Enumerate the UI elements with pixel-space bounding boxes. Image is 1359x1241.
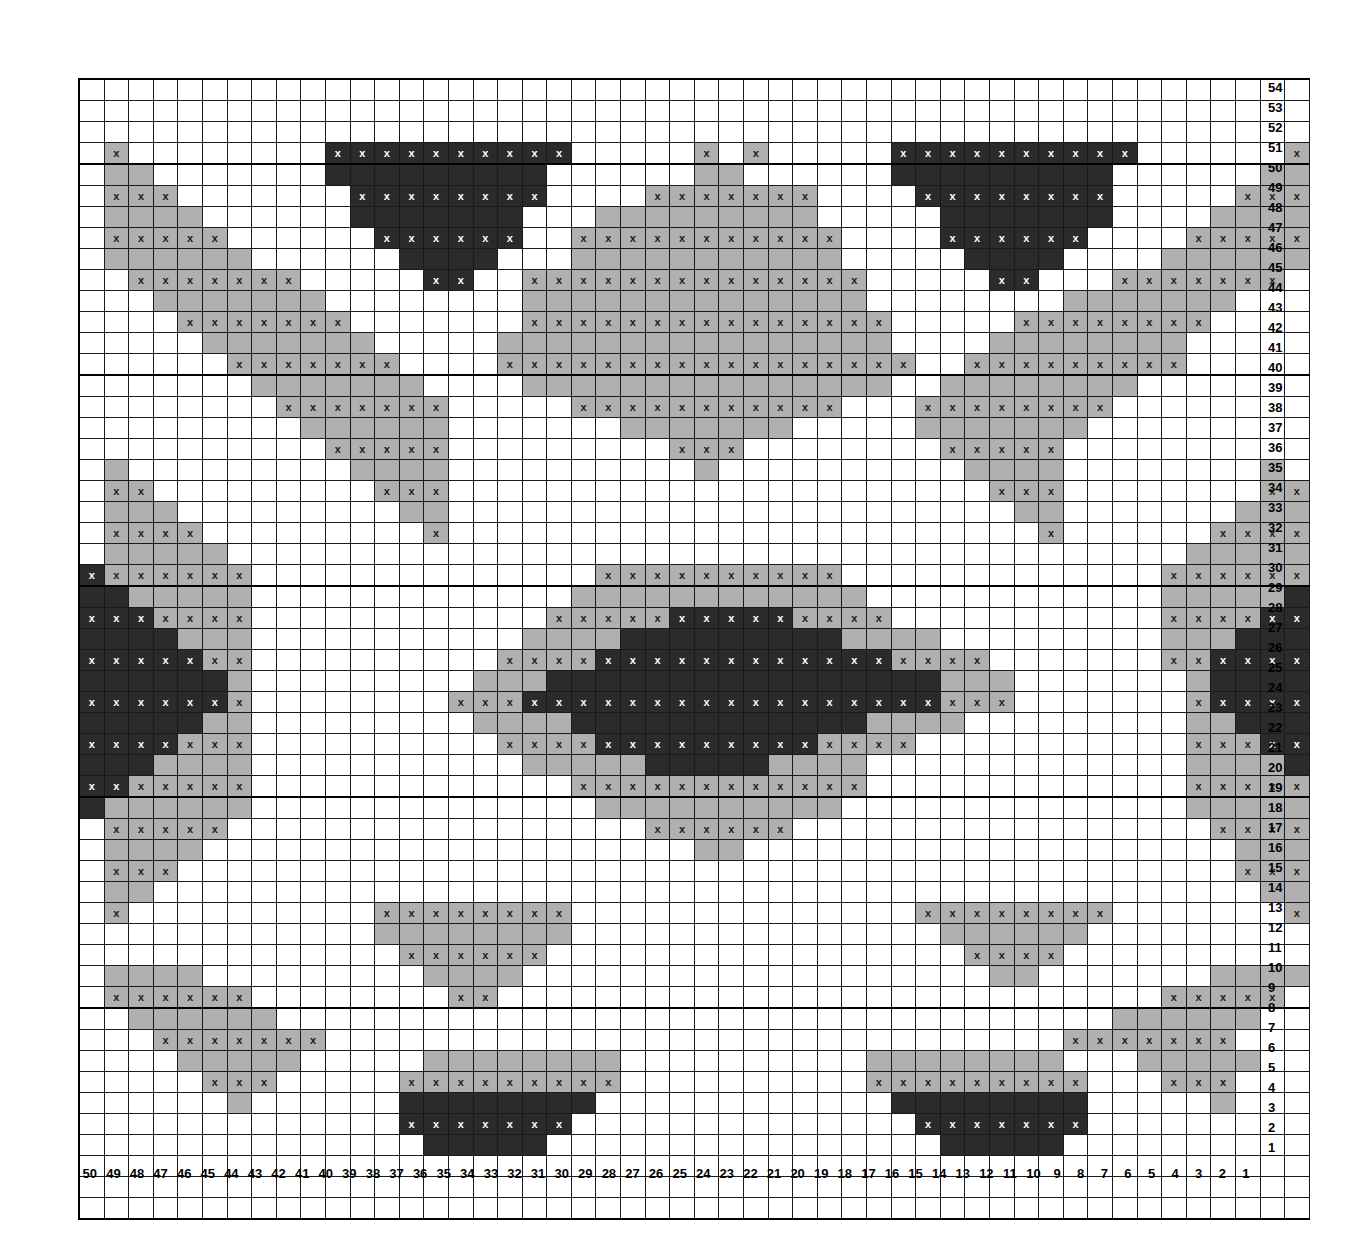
chart-cell[interactable] — [1162, 1093, 1187, 1114]
chart-cell[interactable] — [842, 1008, 867, 1030]
chart-cell[interactable]: x — [842, 734, 867, 755]
chart-cell[interactable] — [448, 502, 473, 523]
chart-cell[interactable] — [916, 1051, 941, 1072]
chart-cell[interactable] — [989, 79, 1014, 101]
chart-cell[interactable] — [940, 924, 965, 945]
chart-cell[interactable]: x — [129, 565, 154, 587]
chart-cell[interactable] — [596, 375, 621, 397]
chart-cell[interactable] — [1014, 776, 1039, 798]
chart-cell[interactable] — [1186, 460, 1211, 481]
chart-cell[interactable] — [178, 924, 203, 945]
chart-cell[interactable] — [768, 945, 793, 966]
chart-cell[interactable] — [1039, 755, 1064, 776]
chart-cell[interactable]: x — [350, 397, 375, 418]
chart-cell[interactable] — [817, 375, 842, 397]
chart-cell[interactable] — [350, 713, 375, 734]
chart-cell[interactable] — [1162, 439, 1187, 460]
chart-cell[interactable] — [153, 122, 178, 143]
chart-cell[interactable] — [817, 101, 842, 122]
chart-cell[interactable] — [153, 312, 178, 333]
chart-cell[interactable]: x — [473, 186, 498, 207]
chart-cell[interactable] — [1014, 966, 1039, 987]
chart-cell[interactable] — [1162, 903, 1187, 924]
chart-cell[interactable] — [571, 840, 596, 861]
chart-cell[interactable]: x — [227, 354, 252, 376]
chart-cell[interactable] — [1162, 418, 1187, 439]
chart-cell[interactable] — [1039, 797, 1064, 819]
chart-cell[interactable] — [793, 1051, 818, 1072]
chart-cell[interactable]: x — [129, 481, 154, 502]
chart-cell[interactable] — [448, 207, 473, 228]
chart-cell[interactable] — [227, 375, 252, 397]
chart-cell[interactable] — [276, 164, 301, 186]
chart-cell[interactable]: x — [719, 692, 744, 713]
chart-cell[interactable] — [522, 101, 547, 122]
chart-cell[interactable] — [891, 987, 916, 1009]
chart-cell[interactable] — [867, 776, 892, 798]
chart-cell[interactable] — [793, 523, 818, 544]
chart-cell[interactable] — [129, 840, 154, 861]
chart-cell[interactable]: x — [79, 692, 104, 713]
chart-cell[interactable] — [252, 101, 277, 122]
chart-cell[interactable] — [350, 1051, 375, 1072]
chart-cell[interactable]: x — [817, 228, 842, 249]
chart-cell[interactable]: x — [1063, 354, 1088, 376]
chart-cell[interactable] — [1285, 924, 1310, 945]
chart-cell[interactable] — [325, 1135, 350, 1156]
chart-cell[interactable] — [498, 1030, 523, 1051]
chart-cell[interactable] — [1211, 207, 1236, 228]
chart-cell[interactable]: x — [1039, 354, 1064, 376]
chart-cell[interactable] — [522, 481, 547, 502]
chart-cell[interactable]: x — [571, 734, 596, 755]
chart-cell[interactable] — [596, 1135, 621, 1156]
chart-cell[interactable] — [842, 481, 867, 502]
chart-cell[interactable] — [891, 122, 916, 143]
chart-cell[interactable] — [1039, 565, 1064, 587]
chart-cell[interactable] — [1063, 122, 1088, 143]
chart-cell[interactable] — [350, 270, 375, 291]
chart-cell[interactable] — [350, 671, 375, 692]
chart-cell[interactable] — [547, 164, 572, 186]
chart-cell[interactable] — [571, 164, 596, 186]
chart-cell[interactable] — [744, 797, 769, 819]
chart-cell[interactable] — [350, 734, 375, 755]
chart-cell[interactable] — [916, 1198, 941, 1220]
chart-cell[interactable] — [891, 439, 916, 460]
chart-cell[interactable] — [940, 291, 965, 312]
chart-cell[interactable] — [1137, 418, 1162, 439]
chart-cell[interactable] — [989, 882, 1014, 903]
chart-cell[interactable] — [916, 1030, 941, 1051]
chart-cell[interactable] — [965, 164, 990, 186]
chart-cell[interactable] — [916, 544, 941, 565]
chart-cell[interactable]: x — [719, 776, 744, 798]
chart-cell[interactable] — [817, 418, 842, 439]
chart-cell[interactable] — [1235, 481, 1260, 502]
chart-cell[interactable] — [448, 882, 473, 903]
chart-cell[interactable]: x — [1014, 439, 1039, 460]
chart-cell[interactable] — [768, 481, 793, 502]
chart-cell[interactable] — [1285, 882, 1310, 903]
chart-cell[interactable] — [1186, 1093, 1211, 1114]
chart-cell[interactable]: x — [178, 734, 203, 755]
chart-cell[interactable] — [547, 671, 572, 692]
chart-cell[interactable] — [252, 671, 277, 692]
chart-cell[interactable] — [129, 418, 154, 439]
chart-cell[interactable] — [1112, 776, 1137, 798]
chart-cell[interactable] — [817, 840, 842, 861]
chart-cell[interactable]: x — [424, 228, 449, 249]
chart-cell[interactable] — [350, 375, 375, 397]
chart-cell[interactable]: x — [1235, 608, 1260, 629]
chart-cell[interactable] — [621, 186, 646, 207]
chart-cell[interactable] — [1014, 502, 1039, 523]
chart-cell[interactable] — [916, 1093, 941, 1114]
chart-cell[interactable]: x — [202, 776, 227, 798]
chart-cell[interactable] — [965, 1030, 990, 1051]
chart-cell[interactable] — [719, 164, 744, 186]
chart-cell[interactable] — [645, 481, 670, 502]
chart-cell[interactable] — [375, 586, 400, 608]
chart-cell[interactable] — [768, 523, 793, 544]
chart-cell[interactable] — [916, 734, 941, 755]
chart-cell[interactable] — [547, 882, 572, 903]
chart-cell[interactable] — [768, 544, 793, 565]
chart-cell[interactable] — [940, 776, 965, 798]
